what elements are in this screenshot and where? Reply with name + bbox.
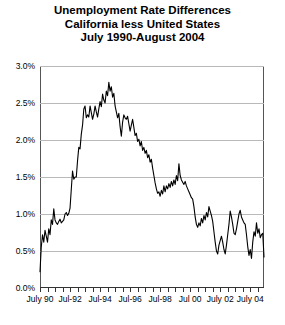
x-axis-tick	[213, 288, 214, 292]
x-axis-tick	[153, 288, 154, 292]
x-axis-tick	[40, 288, 41, 292]
x-axis-tick	[100, 288, 101, 292]
x-axis-tick-label: Jul-98	[149, 294, 172, 304]
y-axis-tick-label: 3.0%	[0, 61, 35, 71]
x-axis-tick	[63, 288, 64, 292]
x-axis-tick	[123, 288, 124, 292]
x-axis-tick	[48, 288, 49, 292]
y-axis-tick-label: 0.0%	[0, 283, 35, 293]
x-axis-tick	[235, 288, 236, 292]
y-axis-tick-label: 1.5%	[0, 172, 35, 182]
x-axis-tick	[220, 288, 221, 292]
plot-area	[40, 66, 264, 288]
x-axis-tick	[138, 288, 139, 292]
x-axis-tick	[93, 288, 94, 292]
x-axis-tick	[168, 288, 169, 292]
x-axis-tick	[115, 288, 116, 292]
x-axis-tick-label: Jul 00	[179, 294, 202, 304]
x-axis-tick	[70, 288, 71, 292]
series-polyline	[40, 82, 264, 271]
x-axis-tick-label: July 90	[27, 294, 54, 304]
y-axis-tick-label: 1.0%	[0, 209, 35, 219]
x-axis-tick	[108, 288, 109, 292]
x-axis-tick	[85, 288, 86, 292]
x-axis-tick	[55, 288, 56, 292]
chart-container: Unemployment Rate Differences California…	[0, 0, 285, 325]
y-axis-tick-label: 2.5%	[0, 98, 35, 108]
x-axis-tick	[175, 288, 176, 292]
x-axis-labels: July 90Jul-92Jul-94Jul-96Jul-98Jul 00Jul…	[0, 294, 285, 310]
x-axis-tick	[250, 288, 251, 292]
x-axis-tick-label: Jul-92	[58, 294, 81, 304]
x-axis-tick-label: July 04	[237, 294, 264, 304]
x-axis-tick	[205, 288, 206, 292]
x-axis-tick	[228, 288, 229, 292]
x-axis-tick	[78, 288, 79, 292]
x-axis-tick	[183, 288, 184, 292]
x-axis-tick-label: Jul-94	[88, 294, 111, 304]
x-axis-tick-label: July 02	[207, 294, 234, 304]
x-axis-tick-label: Jul-96	[119, 294, 142, 304]
x-axis-tick	[130, 288, 131, 292]
x-axis-tick	[145, 288, 146, 292]
x-axis-tick	[198, 288, 199, 292]
y-axis-tick-label: 0.5%	[0, 246, 35, 256]
x-axis-tick	[190, 288, 191, 292]
data-series-line	[40, 66, 264, 288]
x-axis-tick	[160, 288, 161, 292]
x-axis-tick	[258, 288, 259, 292]
x-axis-tick	[243, 288, 244, 292]
y-axis-tick-label: 2.0%	[0, 135, 35, 145]
